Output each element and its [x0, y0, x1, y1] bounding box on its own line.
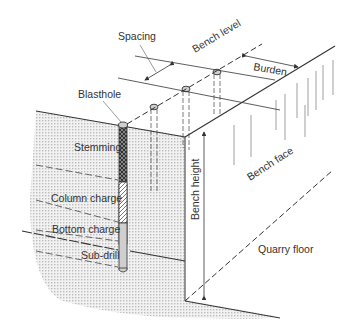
- stem: [119, 125, 127, 182]
- rock-mass: [30, 111, 280, 319]
- label-spacing: Spacing: [118, 30, 156, 42]
- label-stemming: Stemming: [74, 141, 121, 153]
- label-burden: Burden: [253, 60, 289, 78]
- label-bench-height: Bench height: [189, 159, 201, 220]
- bench-toe-line: [185, 170, 333, 301]
- label-bench-level: Bench level: [190, 16, 243, 54]
- blasthole-leader: [103, 101, 121, 122]
- blasthole-bottom: [119, 268, 127, 272]
- bench-crest: [185, 46, 335, 137]
- label-quarry-floor: Quarry floor: [258, 243, 314, 255]
- label-sub-drill: Sub-drill: [81, 249, 120, 261]
- label-bottom-charge: Bottom charge: [52, 223, 120, 235]
- label-column-charge: Column charge: [51, 192, 122, 204]
- bench-blasting-diagram: Spacing Bench level Burden Blasthole Ste…: [0, 0, 354, 323]
- label-bench-face: Bench face: [245, 144, 296, 183]
- blasthole-middle-2: [182, 86, 190, 150]
- spacing-leader: [140, 45, 156, 72]
- blasthole-rear: [213, 69, 221, 114]
- spacing-arrow: [145, 65, 170, 80]
- label-blasthole: Blasthole: [78, 88, 121, 100]
- blasthole-collar-front: [119, 122, 128, 128]
